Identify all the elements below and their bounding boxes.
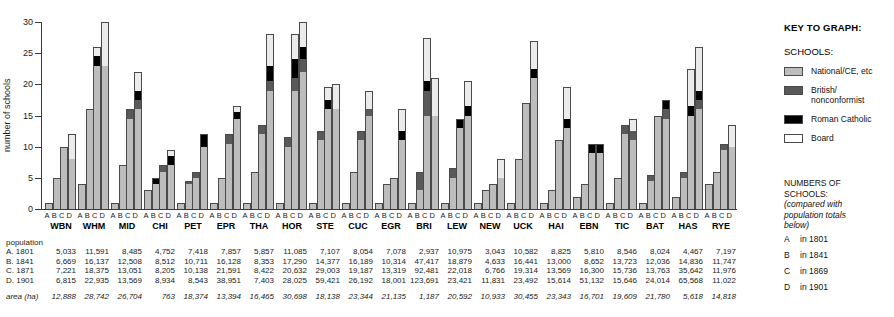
bar-segment-national (285, 147, 291, 209)
bar-segment-national (640, 203, 646, 209)
bar-segment-national (729, 147, 735, 209)
bar-segment-british (696, 100, 702, 109)
bar-group (144, 22, 175, 209)
bar-segment-catholic (399, 131, 405, 140)
y-tick-label: 10 (0, 147, 33, 148)
legend-entry-catholic[interactable]: Roman Catholic (784, 114, 894, 124)
bar-segment-board (135, 72, 141, 91)
bar-group (705, 22, 736, 209)
y-tick-label: 5 (0, 178, 33, 179)
bar-uck-D[interactable] (530, 41, 538, 209)
bar-segment-national (219, 178, 225, 209)
bar-segment-national (102, 66, 108, 209)
x-subcategory-labels: ABCD (639, 211, 669, 220)
table-cell: 8,546 (603, 247, 637, 256)
area-cell: 28,742 (75, 292, 109, 301)
year-key-text: in 1841 (800, 250, 828, 260)
table-cell: 12,508 (108, 257, 142, 266)
legend-entry-british[interactable]: British/nonconformist (784, 85, 894, 105)
bar-ste-D[interactable] (332, 84, 340, 209)
bar-segment-national (465, 116, 471, 210)
table-cell: 5,857 (240, 247, 274, 256)
y-tick (35, 116, 41, 117)
bar-segment-board (564, 87, 570, 118)
bar-segment-british (135, 100, 141, 109)
bar-hor-D[interactable] (299, 22, 307, 209)
bar-pet-D[interactable] (200, 134, 208, 209)
bar-segment-national (574, 197, 580, 209)
bar-segment-national (564, 128, 570, 209)
area-cell: 18,374 (174, 292, 208, 301)
x-subcategory-labels: ABCD (309, 211, 339, 220)
bar-segment-national (46, 203, 52, 209)
bar-segment-national (259, 134, 265, 209)
bar-segment-british (259, 125, 265, 134)
area-cell: 1,187 (405, 292, 439, 301)
x-subcategory-labels: ABCD (672, 211, 702, 220)
bar-segment-national (351, 172, 357, 209)
table-cell: 8,422 (240, 266, 274, 275)
table-cell: 8,825 (537, 247, 571, 256)
bar-chi-D[interactable] (167, 150, 175, 209)
table-cell: 5,810 (570, 247, 604, 256)
bar-segment-catholic (696, 91, 702, 100)
table-cell: 13,763 (636, 266, 670, 275)
table-cell: 7,403 (240, 276, 274, 285)
bar-segment-catholic (688, 106, 694, 115)
bar-whm-D[interactable] (101, 22, 109, 209)
table-cell: 13,319 (372, 266, 406, 275)
bar-segment-national (135, 109, 141, 209)
table-cell: 24,014 (636, 276, 670, 285)
table-cell: 12,036 (636, 257, 670, 266)
bar-bri-D[interactable] (431, 78, 439, 209)
bar-bat-D[interactable] (662, 100, 670, 209)
bar-segment-british (226, 134, 232, 143)
legend-entry-national[interactable]: National/CE, etc (784, 66, 894, 76)
bar-segment-board (531, 41, 537, 69)
x-subcategory-labels: ABCD (507, 211, 537, 220)
bar-segment-board (333, 84, 339, 109)
numbers-title-line1: NUMBERS OF (784, 178, 841, 188)
bar-segment-national (424, 116, 430, 210)
x-category-label-rye: RYE (697, 221, 745, 231)
legend-entry-label: Board (811, 133, 834, 143)
bar-rye-D[interactable] (728, 125, 736, 209)
bar-epr-D[interactable] (233, 106, 241, 209)
table-cell: 18,375 (75, 266, 109, 275)
bar-ebn-D[interactable] (596, 144, 604, 209)
bar-segment-national (483, 190, 489, 209)
plot-area (42, 22, 736, 209)
area-cell: 23,343 (537, 292, 571, 301)
bar-segment-national (168, 165, 174, 209)
bar-tha-D[interactable] (266, 34, 274, 209)
bar-segment-catholic (424, 81, 430, 90)
area-cell: 763 (141, 292, 175, 301)
bar-segment-british (450, 169, 456, 178)
table-cell: 8,485 (108, 247, 142, 256)
bar-segment-board (465, 81, 471, 106)
bar-egr-D[interactable] (398, 109, 406, 209)
bar-segment-board (69, 134, 75, 159)
year-key-letter: C (784, 266, 800, 276)
bar-mid-D[interactable] (134, 72, 142, 209)
table-cell: 123,691 (405, 276, 439, 285)
bar-segment-national (531, 78, 537, 209)
bar-segment-national (409, 203, 415, 209)
bar-lew-D[interactable] (464, 81, 472, 209)
bar-group (441, 22, 472, 209)
bar-wbn-D[interactable] (68, 134, 76, 209)
bar-tic-D[interactable] (629, 119, 637, 209)
bar-hai-D[interactable] (563, 87, 571, 209)
bar-new-D[interactable] (497, 159, 505, 209)
legend-swatch-british-icon (784, 86, 803, 95)
table-cell: 11,022 (702, 276, 736, 285)
bar-segment-national (201, 147, 207, 209)
legend-entry-board[interactable]: Board (784, 133, 894, 143)
table-cell: 22,018 (438, 266, 472, 275)
bar-segment-national (541, 203, 547, 209)
bar-cuc-D[interactable] (365, 91, 373, 209)
table-cell: 10,314 (372, 257, 406, 266)
area-cell: 5,618 (669, 292, 703, 301)
bar-has-D[interactable] (695, 47, 703, 209)
bar-segment-british (622, 125, 628, 134)
